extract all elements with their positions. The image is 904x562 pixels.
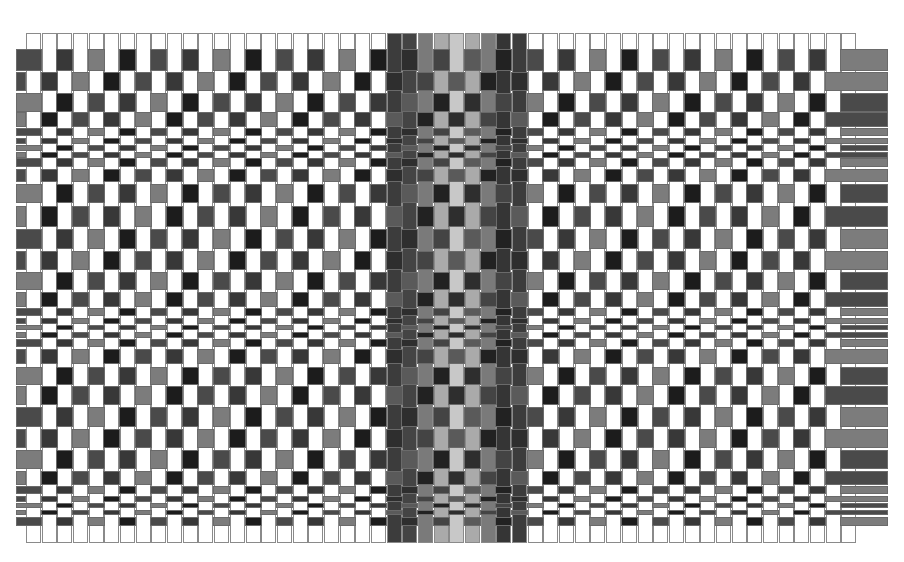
warp-thread xyxy=(261,33,276,543)
weft-float xyxy=(558,145,575,151)
weft-float xyxy=(417,349,434,364)
weft-float xyxy=(731,386,748,405)
weft-float xyxy=(605,206,622,227)
weft-float xyxy=(292,251,309,270)
weft-float xyxy=(213,145,230,151)
weft-float xyxy=(527,367,544,385)
weft-float xyxy=(809,229,826,249)
weft-float xyxy=(401,517,418,526)
weft-float xyxy=(182,517,199,526)
weft-float xyxy=(150,308,167,316)
weft-float xyxy=(307,517,324,526)
weft-float xyxy=(276,325,293,330)
weft-float xyxy=(401,367,418,385)
weft-float xyxy=(464,158,481,167)
weft-float xyxy=(464,184,481,203)
weft-float xyxy=(166,152,183,158)
weft-float xyxy=(495,407,512,427)
weft-float xyxy=(809,339,826,347)
weft-float xyxy=(652,229,669,249)
weft-float xyxy=(527,486,544,494)
weft-float xyxy=(621,367,638,385)
weft-float xyxy=(386,318,403,324)
weft-float xyxy=(276,145,293,151)
weft-float xyxy=(511,152,528,158)
weft-float xyxy=(433,325,450,330)
weft-float xyxy=(197,112,214,127)
weft-float xyxy=(621,128,638,136)
weft-float xyxy=(401,450,418,469)
weft-float xyxy=(527,503,544,508)
weft-float xyxy=(292,332,309,338)
weft-float xyxy=(166,386,183,405)
weft-float xyxy=(417,496,434,502)
weft-float xyxy=(276,229,293,249)
weft-float xyxy=(197,251,214,270)
weft-float xyxy=(370,145,387,151)
weft-float xyxy=(292,429,309,448)
weft-float xyxy=(589,49,606,71)
weft-float xyxy=(778,272,795,290)
weft-float xyxy=(809,503,826,508)
weft-float xyxy=(307,229,324,249)
weft-float xyxy=(448,292,465,307)
weft-float xyxy=(103,510,120,515)
weft-float xyxy=(746,517,763,526)
weft-float xyxy=(809,407,826,427)
weft-float xyxy=(417,112,434,127)
weft-float xyxy=(840,486,888,494)
weft-float xyxy=(558,308,575,316)
weft-float xyxy=(370,308,387,316)
weft-float xyxy=(354,318,371,324)
weft-float xyxy=(56,272,73,290)
weft-float xyxy=(307,272,324,290)
weft-float xyxy=(731,471,748,485)
weft-float xyxy=(72,496,89,502)
weft-float xyxy=(339,145,356,151)
weft-float xyxy=(370,486,387,494)
weft-float xyxy=(652,145,669,151)
weft-float xyxy=(448,72,465,91)
weft-float xyxy=(370,517,387,526)
weft-float xyxy=(668,138,685,144)
weft-float xyxy=(574,349,591,364)
weft-float xyxy=(401,128,418,136)
weft-float xyxy=(840,272,888,290)
weft-float xyxy=(370,158,387,167)
weft-float xyxy=(589,407,606,427)
weft-float xyxy=(433,367,450,385)
weft-float xyxy=(260,349,277,364)
warp-thread xyxy=(324,33,339,543)
weft-float xyxy=(793,349,810,364)
weft-float xyxy=(699,138,716,144)
weft-float xyxy=(339,184,356,203)
weft-float xyxy=(778,407,795,427)
weft-float xyxy=(56,503,73,508)
weft-float xyxy=(511,72,528,91)
weft-float xyxy=(495,272,512,290)
weft-float xyxy=(527,272,544,290)
weft-float xyxy=(558,272,575,290)
weft-float xyxy=(793,318,810,324)
weft-float xyxy=(652,128,669,136)
weft-float xyxy=(339,339,356,347)
weft-float xyxy=(731,429,748,448)
weft-float xyxy=(668,112,685,127)
weft-float xyxy=(213,93,230,112)
weft-float xyxy=(746,308,763,316)
weft-float xyxy=(621,158,638,167)
weft-float xyxy=(574,112,591,127)
weft-float xyxy=(150,517,167,526)
weft-float xyxy=(41,292,58,307)
weft-float xyxy=(699,429,716,448)
weft-float xyxy=(417,510,434,515)
weft-float xyxy=(433,339,450,347)
weft-float xyxy=(511,510,528,515)
weft-float xyxy=(731,510,748,515)
weft-float xyxy=(150,93,167,112)
weft-float xyxy=(88,49,105,71)
weft-float xyxy=(229,206,246,227)
weft-float xyxy=(323,72,340,91)
weft-float xyxy=(762,251,779,270)
weft-float xyxy=(527,517,544,526)
